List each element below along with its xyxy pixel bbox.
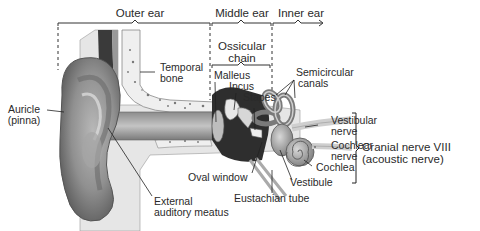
label-temporal-bone: Temporal bone — [160, 62, 203, 84]
ear-anatomy-diagram: Outer ear Middle ear Inner ear Ossicular… — [0, 0, 480, 231]
label-external-auditory-meatus: External auditory meatus — [154, 196, 229, 218]
label-vestibule: Vestibule — [290, 177, 333, 188]
label-cranial-nerve-viii: Cranial nerve VIII (acoustic nerve) — [362, 141, 451, 165]
label-auricle: Auricle (pinna) — [2, 104, 46, 126]
label-stapes: Stapes — [243, 92, 276, 103]
region-label-inner-ear: Inner ear — [276, 7, 326, 19]
label-cochlea: Cochlea — [316, 162, 355, 173]
label-eustachian-tube: Eustachian tube — [234, 193, 309, 204]
region-label-outer-ear: Outer ear — [100, 7, 180, 19]
region-label-middle-ear: Middle ear — [212, 7, 272, 19]
label-vestibular-nerve: Vestibular nerve — [331, 115, 377, 137]
label-semicircular-canals: Semicircular canals — [296, 67, 354, 89]
label-oval-window: Oval window — [188, 172, 248, 183]
label-ossicular-chain: Ossicular chain — [214, 40, 270, 64]
